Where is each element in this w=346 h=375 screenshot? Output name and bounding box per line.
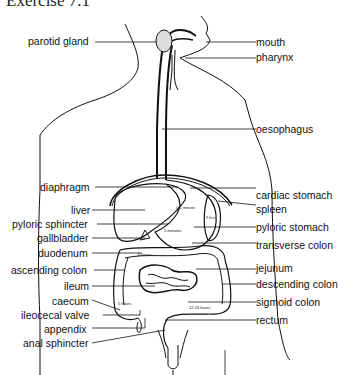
- parotid-gland-shape: [156, 30, 172, 52]
- label-anal-sphincter: anal sphincter: [23, 337, 88, 349]
- label-caecum: caecum: [52, 295, 89, 307]
- time-note-pyloric: 5 minutes: [164, 228, 181, 233]
- label-descending-colon: descending colon: [256, 278, 338, 290]
- label-mouth: mouth: [256, 36, 285, 48]
- label-transverse-colon: transverse colon: [256, 239, 333, 251]
- small-intestine: [139, 265, 197, 293]
- label-duodenum: duodenum: [38, 247, 88, 259]
- label-spleen: spleen: [256, 203, 287, 215]
- label-pharynx: pharynx: [256, 51, 293, 63]
- descending-colon-shape: [210, 260, 231, 314]
- label-parotid-gland: parotid gland: [28, 35, 89, 47]
- label-ileum: ileum: [64, 280, 89, 292]
- label-pyloric-stomach: pyloric stomach: [256, 221, 329, 233]
- label-cardiac-stomach: cardiac stomach: [256, 189, 332, 201]
- label-sigmoid-colon: sigmoid colon: [256, 296, 320, 308]
- label-ileocecal-valve: ileocecal valve: [21, 309, 89, 321]
- label-oesophagus: oesophagus: [256, 123, 313, 135]
- time-note-cardiac: 0-1 minute: [176, 205, 195, 210]
- oesophagus-tube: [157, 40, 164, 178]
- sigmoid-colon-shape: [164, 314, 211, 348]
- time-note-duodenum: 6 hours: [138, 252, 151, 257]
- label-appendix: appendix: [44, 323, 87, 335]
- label-diaphragm: diaphragm: [40, 181, 90, 193]
- oesophagus-tube-inner: [166, 45, 172, 180]
- time-note-sigmoid: 12-24 hours: [189, 305, 210, 310]
- digestive-system-diagram: Exercise 7.1: [0, 0, 346, 375]
- label-rectum: rectum: [256, 314, 288, 326]
- label-ascending-colon: ascending colon: [11, 264, 87, 276]
- label-liver: liver: [71, 204, 90, 216]
- label-gallbladder: gallbladder: [37, 232, 88, 244]
- time-note-caecum: 5 hours: [118, 301, 131, 306]
- label-jejunum: jejunum: [256, 262, 293, 274]
- pointer-lines-left: [92, 42, 178, 343]
- time-note-spleen-side: 9 hrs: [206, 215, 215, 220]
- label-pyloric-sphincter: pyloric sphincter: [12, 218, 88, 230]
